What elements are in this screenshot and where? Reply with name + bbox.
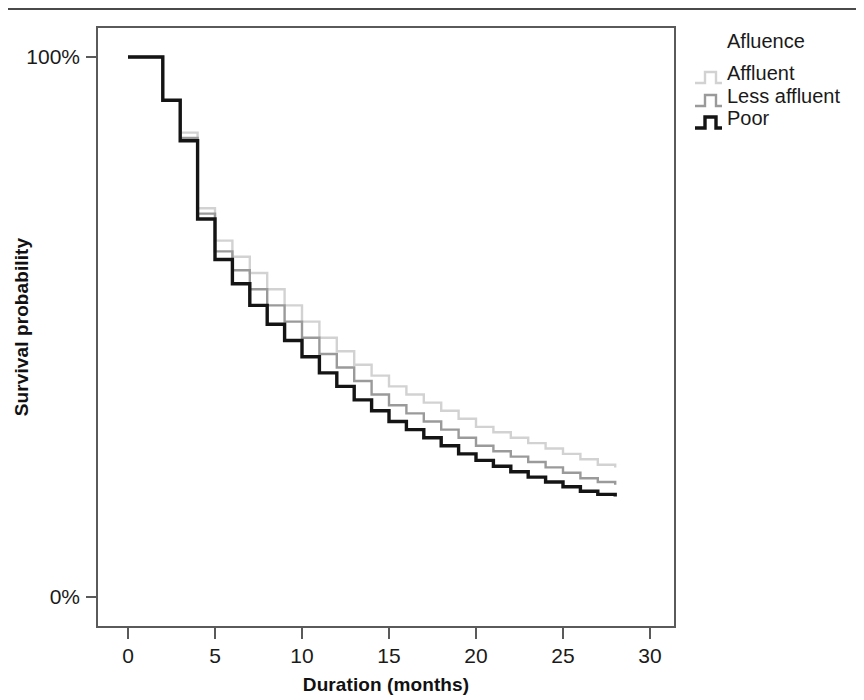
y-axis-ticks <box>86 57 97 597</box>
x-tick-label-25: 25 <box>551 644 574 667</box>
x-tick-label-10: 10 <box>290 644 313 667</box>
curve-less-affluent <box>128 57 615 485</box>
x-tick-label-15: 15 <box>377 644 400 667</box>
y-axis-title: Survival probability <box>11 238 32 417</box>
legend-item-less-affluent[interactable]: Less affluent <box>695 85 840 107</box>
survival-curves-group <box>128 57 615 497</box>
x-tick-label-20: 20 <box>464 644 487 667</box>
survival-curve-figure: 100% 0% 0 5 10 15 20 25 30 Duration (mon… <box>0 0 864 700</box>
legend-item-affluent[interactable]: Affluent <box>695 62 795 84</box>
legend-swatch-poor <box>695 117 722 128</box>
legend: Afluence Affluent Less affluent Poor <box>695 30 840 129</box>
y-tick-label-100: 100% <box>26 45 80 68</box>
legend-swatch-affluent <box>695 72 722 83</box>
plot-frame <box>97 27 675 627</box>
x-tick-label-30: 30 <box>638 644 661 667</box>
legend-title: Afluence <box>727 30 805 52</box>
legend-label-affluent: Affluent <box>727 62 795 84</box>
curve-poor <box>128 57 615 497</box>
kaplan-meier-plot: 100% 0% 0 5 10 15 20 25 30 Duration (mon… <box>0 0 864 700</box>
legend-swatch-less-affluent <box>695 95 722 106</box>
x-axis-title: Duration (months) <box>303 674 469 695</box>
legend-item-poor[interactable]: Poor <box>695 107 770 129</box>
x-tick-label-0: 0 <box>122 644 134 667</box>
legend-label-poor: Poor <box>727 107 770 129</box>
legend-label-less-affluent: Less affluent <box>727 85 840 107</box>
x-tick-label-5: 5 <box>209 644 221 667</box>
x-axis-ticks <box>128 627 650 639</box>
y-tick-label-0: 0% <box>50 585 80 608</box>
